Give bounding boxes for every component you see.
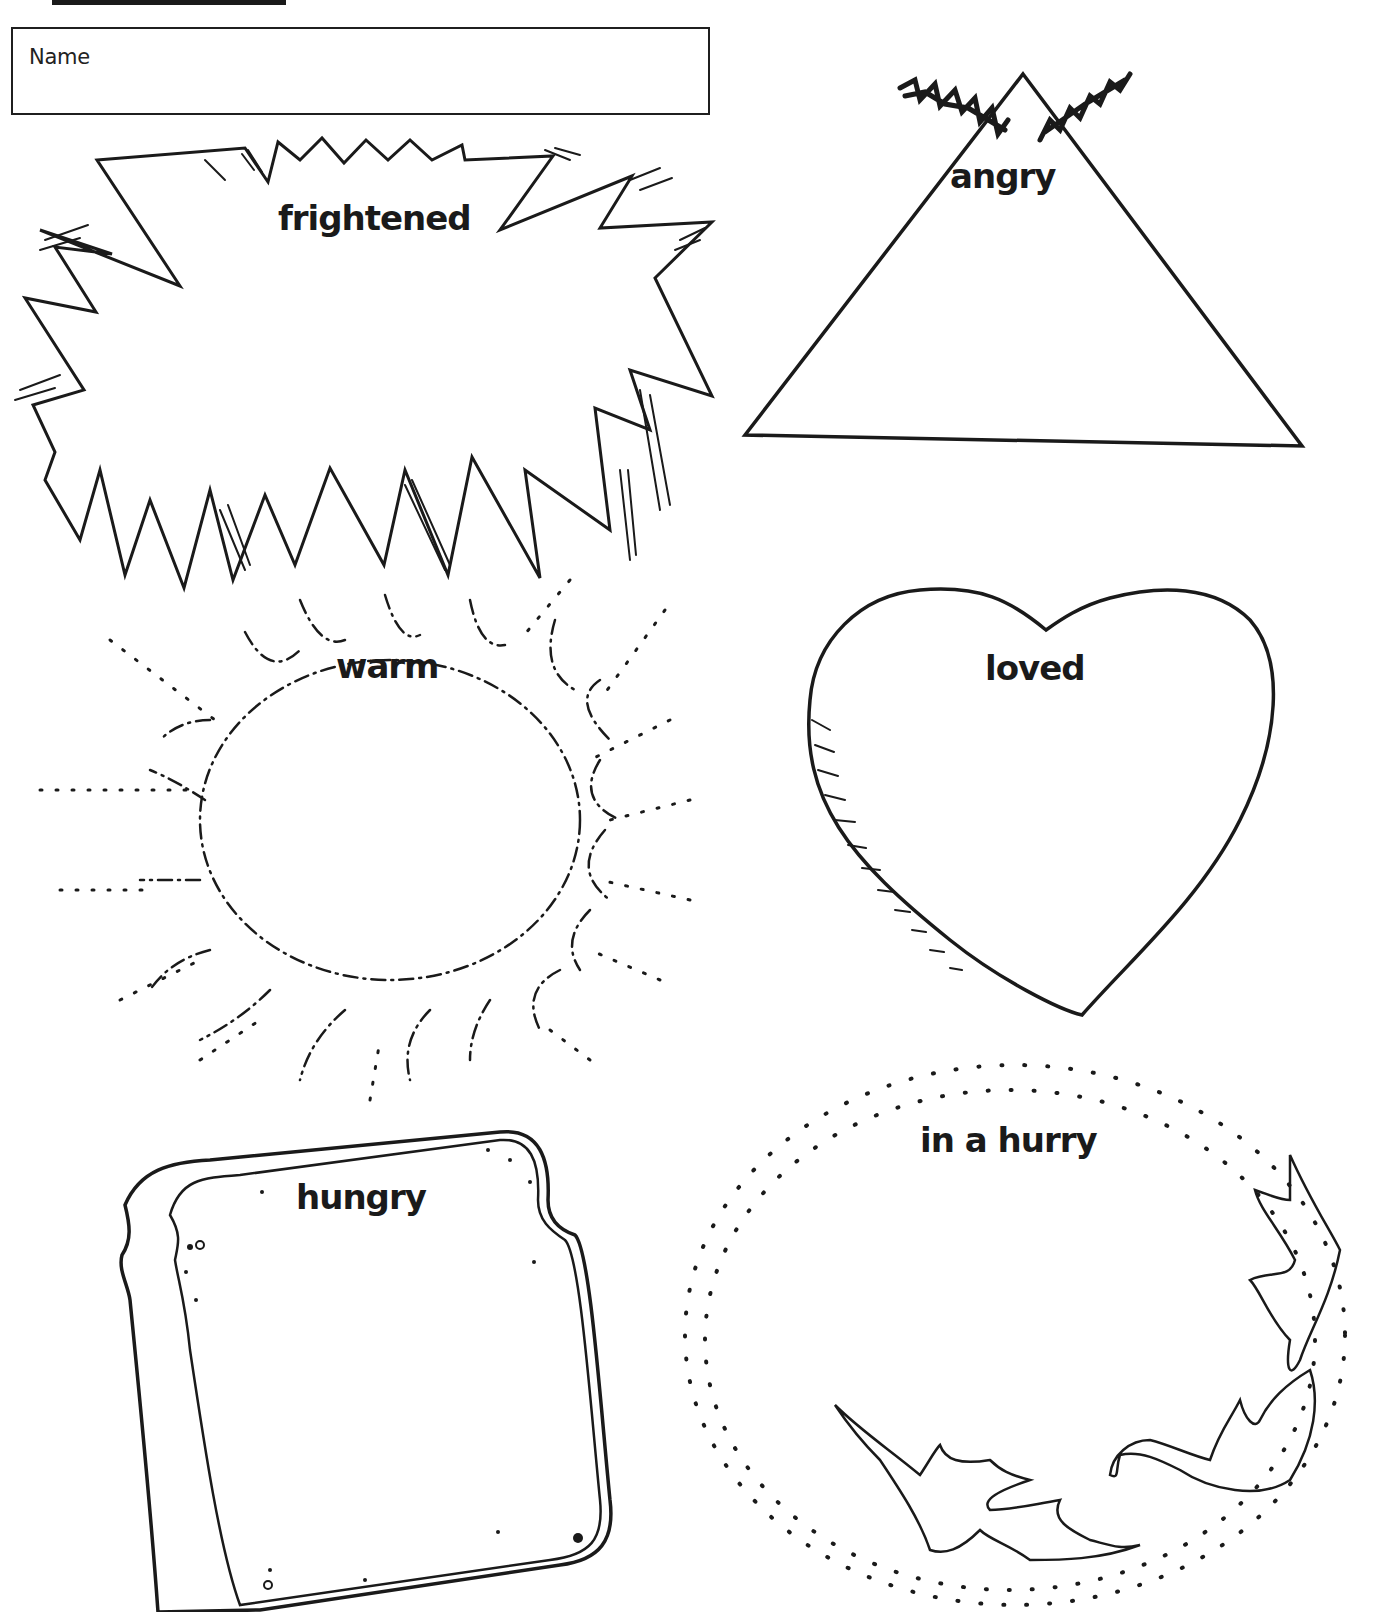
- leaf-group: [835, 1155, 1340, 1560]
- loved-label: loved: [985, 648, 1085, 688]
- angry-volcano-shape[interactable]: [745, 74, 1302, 446]
- hungry-label: hungry: [296, 1177, 426, 1217]
- in-a-hurry-label: in a hurry: [920, 1120, 1097, 1160]
- angry-label: angry: [950, 156, 1055, 196]
- smoke-scribble-right: [1040, 74, 1130, 140]
- smoke-scribble-left: [900, 80, 1008, 134]
- frightened-label: frightened: [278, 198, 471, 238]
- warm-label: warm: [336, 646, 439, 686]
